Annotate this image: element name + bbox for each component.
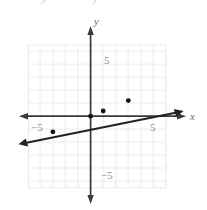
x-axis-label: x: [189, 110, 195, 122]
data-point: [88, 114, 93, 119]
coordinate-plane-figure: 5 −5 −5 5 y x: [0, 0, 207, 210]
y-tick-label-neg5: −5: [101, 169, 113, 181]
data-point: [51, 129, 56, 134]
y-axis-label: y: [93, 15, 99, 27]
y-tick-label-5: 5: [104, 54, 110, 66]
x-tick-label-5: 5: [150, 121, 156, 133]
data-point: [126, 98, 131, 103]
data-point: [101, 109, 106, 114]
x-tick-label-neg5: −5: [31, 121, 43, 133]
